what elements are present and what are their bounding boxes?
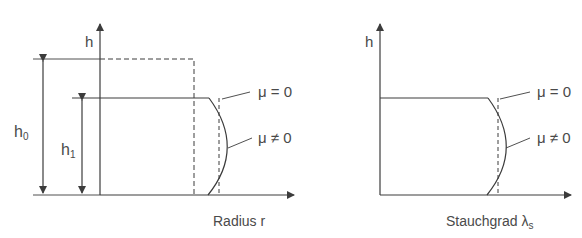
h1-base: h bbox=[61, 141, 70, 158]
right-mu-zero-label: μ = 0 bbox=[537, 84, 571, 99]
h0-base: h bbox=[14, 123, 23, 140]
right-x-axis-label-sub: s bbox=[529, 220, 534, 231]
mu-nonzero-barrel-profile bbox=[208, 98, 227, 195]
left-mu-zero-label: μ = 0 bbox=[258, 84, 292, 99]
right-x-axis-label: Stauchgrad λs bbox=[446, 214, 534, 231]
initial-billet-outline bbox=[100, 59, 194, 195]
right-mu-zero-leader bbox=[500, 92, 530, 99]
right-mu-nonzero-leader bbox=[506, 138, 530, 148]
right-panel bbox=[380, 24, 571, 195]
h1-sub: 1 bbox=[70, 149, 76, 160]
right-mu-nonzero-label: μ ≠ 0 bbox=[537, 130, 571, 145]
h1-label: h1 bbox=[61, 142, 75, 160]
left-x-axis-label: Radius r bbox=[213, 214, 265, 228]
h0-label: h0 bbox=[14, 124, 28, 142]
mu-zero-leader bbox=[222, 92, 250, 99]
left-panel bbox=[33, 24, 294, 195]
right-y-axis-label: h bbox=[365, 34, 373, 49]
right-mu-nonzero-profile bbox=[487, 98, 506, 195]
left-y-axis-label: h bbox=[85, 34, 93, 49]
mu-nonzero-leader bbox=[228, 138, 252, 148]
h0-sub: 0 bbox=[23, 131, 29, 142]
right-x-axis-label-base: Stauchgrad λ bbox=[446, 213, 529, 229]
left-mu-nonzero-label: μ ≠ 0 bbox=[258, 130, 292, 145]
